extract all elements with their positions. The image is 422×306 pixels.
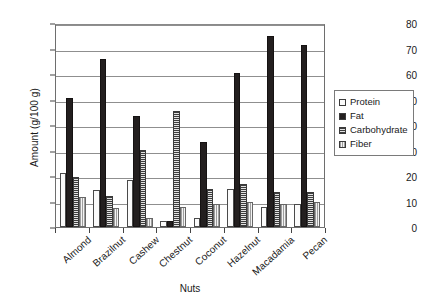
y-tick-mark	[50, 202, 55, 203]
x-axis-label-cashew: Cashew	[126, 234, 161, 267]
bar-chart: Amount (g/100 g) 01020304050607080 Almon…	[0, 0, 422, 306]
legend-item-protein: Protein	[339, 95, 408, 109]
y-tick-label: 20	[378, 172, 422, 183]
bar-fiber-pecan	[314, 202, 321, 227]
y-axis-title: Amount (g/100 g)	[29, 28, 40, 228]
bar-fiber-brazilnut	[113, 208, 120, 227]
bar-group	[90, 25, 124, 227]
x-axis-label-brazilnut: Brazilnut	[90, 234, 127, 269]
x-tick-mark	[89, 228, 90, 233]
x-tick-mark	[291, 228, 292, 233]
y-tick-mark	[50, 49, 55, 50]
y-tick-label: 70	[378, 44, 422, 55]
legend-item-fat: Fat	[339, 109, 408, 123]
bar-fiber-macadamia	[280, 204, 287, 227]
legend-swatch-carbohydrate-icon	[339, 127, 346, 134]
legend-item-carbohydrate: Carbohydrate	[339, 123, 408, 137]
x-tick-mark	[55, 228, 56, 233]
y-tick-label: 0	[378, 223, 422, 234]
y-tick-mark	[50, 75, 55, 76]
bar-fiber-cashew	[146, 218, 153, 227]
x-tick-mark	[224, 228, 225, 233]
bar-carbohydrate-cashew	[140, 150, 147, 227]
bar-groups	[56, 25, 324, 227]
y-tick-label: 60	[378, 70, 422, 81]
y-tick-label: 80	[378, 19, 422, 30]
x-axis-label-almond: Almond	[60, 234, 93, 265]
x-tick-mark	[156, 228, 157, 233]
legend-swatch-protein-icon	[339, 99, 346, 106]
bar-group	[123, 25, 157, 227]
bar-fiber-chestnut	[180, 207, 187, 227]
bar-group	[224, 25, 258, 227]
bar-group	[56, 25, 90, 227]
bar-fiber-hazelnut	[247, 202, 254, 227]
legend-swatch-fiber-icon	[339, 141, 346, 148]
bar-group	[157, 25, 191, 227]
legend-label: Protein	[350, 97, 380, 107]
y-tick-mark	[50, 24, 55, 25]
y-tick-mark	[50, 151, 55, 152]
bar-group	[291, 25, 325, 227]
x-axis-label-pecan: Pecan	[301, 234, 330, 261]
x-axis-label-coconut: Coconut	[193, 234, 229, 268]
legend-item-fiber: Fiber	[339, 137, 408, 151]
y-tick-mark	[50, 177, 55, 178]
x-axis-label-chestnut: Chestnut	[157, 234, 195, 269]
bar-fiber-almond	[79, 197, 86, 227]
y-tick-label: 10	[378, 197, 422, 208]
bar-group	[190, 25, 224, 227]
x-axis-title: Nuts	[55, 283, 325, 294]
x-tick-mark	[190, 228, 191, 233]
legend-label: Fat	[350, 111, 364, 121]
bar-fiber-coconut	[213, 204, 220, 227]
x-tick-mark	[325, 228, 326, 233]
y-tick-mark	[50, 126, 55, 127]
y-tick-mark	[50, 100, 55, 101]
bar-group	[257, 25, 291, 227]
legend-label: Fiber	[350, 139, 372, 149]
x-tick-mark	[123, 228, 124, 233]
legend: ProteinFatCarbohydrateFiber	[334, 90, 414, 156]
x-tick-mark	[258, 228, 259, 233]
legend-label: Carbohydrate	[350, 125, 408, 135]
legend-swatch-fat-icon	[339, 113, 346, 120]
